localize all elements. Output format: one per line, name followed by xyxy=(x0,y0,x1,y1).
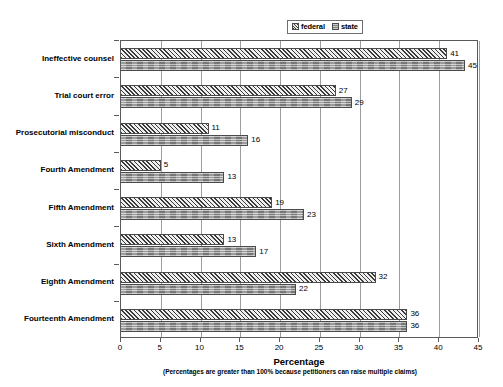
bar-value-label: 17 xyxy=(259,248,268,256)
bar-value-label: 23 xyxy=(307,211,316,219)
bar-line-state: 17 xyxy=(121,246,477,257)
y-axis-tick xyxy=(114,264,119,265)
bar-line-state: 23 xyxy=(121,209,477,220)
y-axis-label: Ineffective counsel xyxy=(42,54,114,63)
bar-line-federal: 36 xyxy=(121,309,477,320)
x-axis-title: Percentage xyxy=(120,356,478,367)
x-axis-tick-15 xyxy=(239,338,240,342)
bar-line-state: 16 xyxy=(121,135,477,146)
x-axis-tick-35 xyxy=(398,338,399,342)
bar-value-label: 32 xyxy=(379,273,388,281)
bar-group: 4145 xyxy=(121,41,477,78)
x-axis-tick-label-15: 15 xyxy=(235,343,244,353)
bar-value-label: 11 xyxy=(212,124,220,132)
y-axis-label: Fourth Amendment xyxy=(41,165,114,174)
x-axis-tick-label-10: 10 xyxy=(195,343,204,353)
bar-state[interactable] xyxy=(121,209,304,220)
bar-state[interactable] xyxy=(121,135,248,146)
bar-value-label: 29 xyxy=(355,99,364,107)
bar-value-label: 16 xyxy=(251,136,260,144)
bar-value-label: 5 xyxy=(164,161,168,169)
bar-federal[interactable] xyxy=(121,85,336,96)
x-axis-tick-40 xyxy=(438,338,439,342)
x-axis-tick-30 xyxy=(359,338,360,342)
x-axis-tick-45 xyxy=(478,338,479,342)
y-axis-label: Fifth Amendment xyxy=(49,203,114,212)
bar-line-federal: 19 xyxy=(121,197,477,208)
bar-line-state: 45 xyxy=(121,60,477,71)
bar-line-federal: 13 xyxy=(121,234,477,245)
x-axis-tick-label-40: 40 xyxy=(434,343,443,353)
x-axis-tick-5 xyxy=(160,338,161,342)
x-axis-tick-labels: 051015202530354045 xyxy=(120,343,478,355)
y-axis-tick xyxy=(114,189,119,190)
bar-state[interactable] xyxy=(121,172,224,183)
bar-line-state: 22 xyxy=(121,284,477,295)
bar-line-federal: 27 xyxy=(121,85,477,96)
bar-state[interactable] xyxy=(121,246,256,257)
bar-value-label: 45 xyxy=(468,62,477,70)
bar-group: 3222 xyxy=(121,265,477,302)
bar-line-federal: 5 xyxy=(121,160,477,171)
bar-line-federal: 32 xyxy=(121,272,477,283)
y-axis-labels: Ineffective counselTrial court errorPros… xyxy=(0,40,117,338)
y-axis-tick xyxy=(114,301,119,302)
bar-state[interactable] xyxy=(121,284,296,295)
bar-group: 1923 xyxy=(121,190,477,227)
bar-federal[interactable] xyxy=(121,197,272,208)
bar-value-label: 36 xyxy=(410,310,419,318)
y-axis-label: Fourteenth Amendment xyxy=(24,314,114,323)
bar-state[interactable] xyxy=(121,97,352,108)
bar-state[interactable] xyxy=(121,60,465,71)
bar-group: 513 xyxy=(121,153,477,190)
legend-swatch-federal-icon xyxy=(292,23,299,30)
bar-federal[interactable] xyxy=(121,234,224,245)
y-axis-tick xyxy=(114,77,119,78)
bar-federal[interactable] xyxy=(121,309,407,320)
gridline-45 xyxy=(479,41,480,337)
y-axis-label: Eighth Amendment xyxy=(41,277,114,286)
chart-legend: federal state xyxy=(287,20,363,34)
x-axis-tick-label-5: 5 xyxy=(158,343,162,353)
bar-group: 1317 xyxy=(121,227,477,264)
bar-group: 2729 xyxy=(121,78,477,115)
x-axis-tick-10 xyxy=(200,338,201,342)
bar-state[interactable] xyxy=(121,321,407,332)
bar-group: 3636 xyxy=(121,302,477,339)
plot-area: 4145272911165131923131732223636 xyxy=(120,40,478,338)
bar-value-label: 22 xyxy=(299,285,308,293)
y-axis-tick xyxy=(114,152,119,153)
bar-value-label: 36 xyxy=(410,322,419,330)
legend-entry-federal: federal xyxy=(292,22,325,31)
bar-line-federal: 11 xyxy=(121,123,477,134)
bar-federal[interactable] xyxy=(121,272,376,283)
legend-label-federal: federal xyxy=(301,22,325,31)
x-axis-tick-0 xyxy=(120,338,121,342)
y-axis-tick xyxy=(114,40,119,41)
bar-groups: 4145272911165131923131732223636 xyxy=(121,41,477,337)
legend-entry-state: state xyxy=(332,22,358,31)
y-axis-label: Sixth Amendment xyxy=(46,240,114,249)
bar-value-label: 13 xyxy=(227,173,236,181)
bar-value-label: 27 xyxy=(339,87,348,95)
y-axis-label: Prosecutorial misconduct xyxy=(16,128,114,137)
y-axis-label: Trial court error xyxy=(54,91,114,100)
bar-federal[interactable] xyxy=(121,160,161,171)
legend-swatch-state-icon xyxy=(332,23,339,30)
bar-federal[interactable] xyxy=(121,123,209,134)
x-axis-tick-label-0: 0 xyxy=(118,343,122,353)
y-axis-tick xyxy=(114,115,119,116)
y-axis-tick xyxy=(114,226,119,227)
x-axis-tick-20 xyxy=(279,338,280,342)
bar-line-federal: 41 xyxy=(121,48,477,59)
bar-chart: federal state Ineffective counselTrial c… xyxy=(0,0,503,387)
x-axis-tick-label-20: 20 xyxy=(275,343,284,353)
x-axis-tick-25 xyxy=(319,338,320,342)
bar-value-label: 13 xyxy=(227,236,236,244)
bar-federal[interactable] xyxy=(121,48,447,59)
bar-group: 1116 xyxy=(121,116,477,153)
chart-footnote: (Percentages are greater than 100% becau… xyxy=(90,368,490,376)
legend-label-state: state xyxy=(341,22,358,31)
bar-line-state: 29 xyxy=(121,97,477,108)
x-axis-tick-label-35: 35 xyxy=(394,343,403,353)
